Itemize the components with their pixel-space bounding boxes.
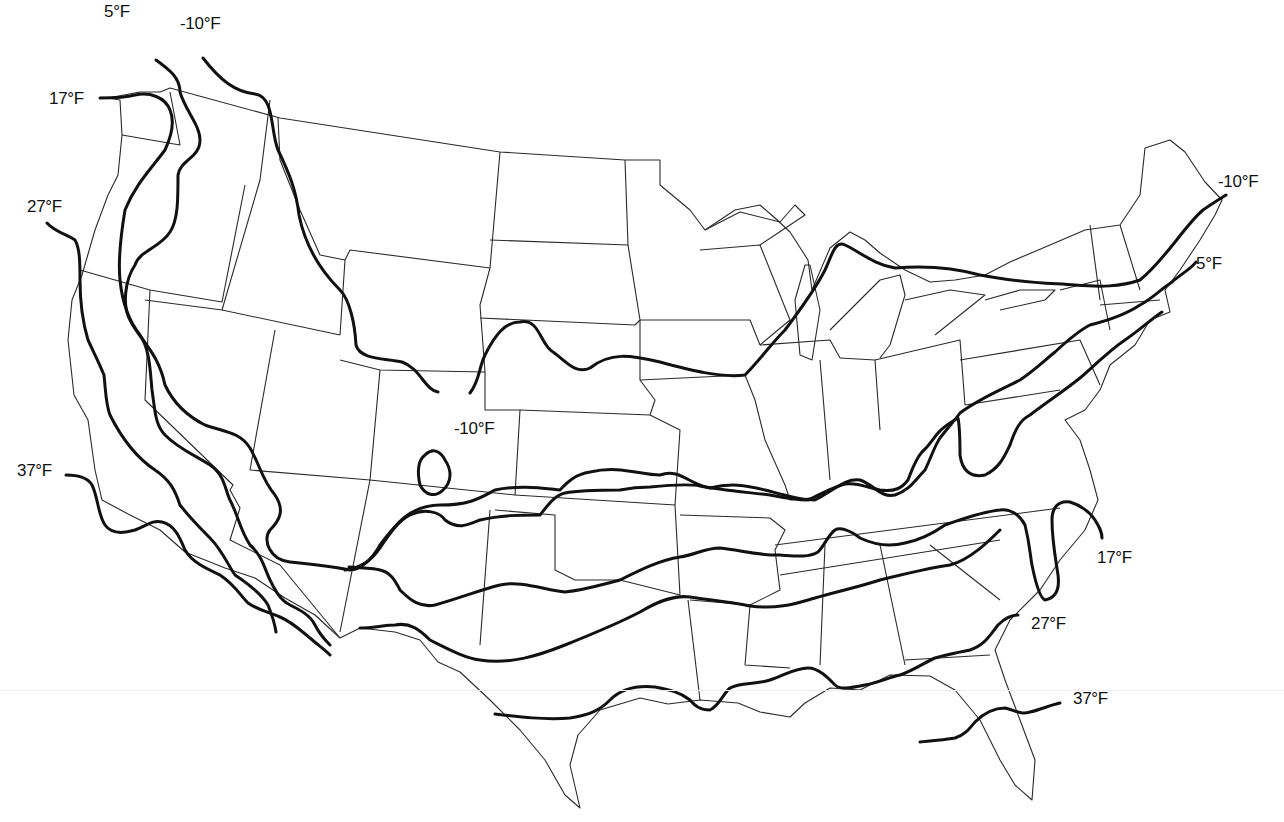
- label-minus10-colorado: -10°F: [454, 419, 494, 439]
- state-boundaries: [80, 92, 1160, 700]
- iso-17-line: [100, 94, 1162, 645]
- label-27-east: 27°F: [1031, 614, 1066, 634]
- label-27-west: 27°F: [27, 197, 62, 217]
- label-minus10-northeast: -10°F: [1218, 172, 1258, 192]
- great-lakes: [705, 205, 1055, 360]
- label-17-west: 17°F: [49, 89, 84, 109]
- isotherm-lines: [47, 58, 1226, 742]
- label-37-east: 37°F: [1073, 689, 1108, 709]
- iso-minus10-colorado-line: [418, 451, 450, 495]
- label-17-east: 17°F: [1097, 548, 1132, 568]
- label-5-northeast: 5°F: [1196, 254, 1222, 274]
- iso-37-line: [66, 475, 1060, 742]
- us-outline: [68, 88, 1222, 808]
- label-minus10-northwest: -10°F: [180, 14, 220, 34]
- iso-5-line: [125, 60, 1196, 570]
- label-5-north: 5°F: [104, 2, 130, 22]
- label-37-west: 37°F: [17, 461, 52, 481]
